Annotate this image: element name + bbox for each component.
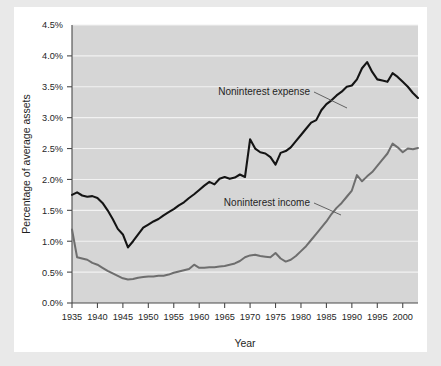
plot-area-background <box>72 25 418 303</box>
x-axis-tick-label: 1935 <box>62 312 82 322</box>
x-axis-tick-label: 1945 <box>113 312 133 322</box>
y-axis-tick-label: 2.5% <box>42 144 63 154</box>
x-axis-tick-label: 1960 <box>189 312 209 322</box>
figure-root: 0.0%0.5%1.0%1.5%2.0%2.5%3.0%3.5%4.0%4.5%… <box>0 0 441 366</box>
x-axis-tick-label: 1955 <box>164 312 184 322</box>
y-axis-tick-label: 4.0% <box>42 51 63 61</box>
y-axis-tick-label: 3.0% <box>42 113 63 123</box>
y-axis-tick-label: 1.0% <box>42 237 63 247</box>
x-axis-title: Year <box>234 337 256 349</box>
x-axis-tick-label: 1970 <box>240 312 260 322</box>
y-axis-tick-label: 2.0% <box>42 175 63 185</box>
figure-card: 0.0%0.5%1.0%1.5%2.0%2.5%3.0%3.5%4.0%4.5%… <box>14 7 427 352</box>
x-axis-tick-label: 1980 <box>291 312 311 322</box>
annotation-label-noninterest-expense: Noninterest expense <box>218 86 310 97</box>
x-axis-tick-label: 1975 <box>265 312 285 322</box>
x-axis-tick-label: 1950 <box>138 312 158 322</box>
x-axis-tick-label: 1990 <box>342 312 362 322</box>
x-axis-tick-label: 1995 <box>367 312 387 322</box>
x-axis-tick-label: 1965 <box>214 312 234 322</box>
y-axis-tick-label: 0.5% <box>42 268 63 278</box>
y-axis-tick-label: 4.5% <box>42 20 63 30</box>
annotation-label-noninterest-income: Noninterest income <box>224 197 311 208</box>
x-axis-tick-label: 1940 <box>87 312 107 322</box>
x-axis-tick-label: 2000 <box>393 312 413 322</box>
y-axis-title: Percentage of average assets <box>20 94 32 234</box>
y-axis-tick-label: 1.5% <box>42 206 63 216</box>
y-axis-tick-label: 3.5% <box>42 82 63 92</box>
x-axis-tick-label: 1985 <box>316 312 336 322</box>
y-axis-tick-label: 0.0% <box>42 298 63 308</box>
line-chart: 0.0%0.5%1.0%1.5%2.0%2.5%3.0%3.5%4.0%4.5%… <box>14 7 427 352</box>
